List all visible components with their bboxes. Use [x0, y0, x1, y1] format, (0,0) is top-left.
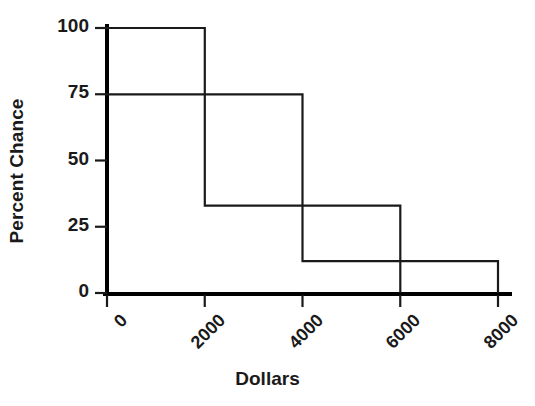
- x-axis-title: Dollars: [0, 368, 535, 390]
- step-curve: [107, 28, 400, 293]
- step-curve: [107, 94, 498, 293]
- chart-figure: 0255075100 02000400060008000 Percent Cha…: [0, 0, 535, 406]
- y-axis-title: Percent Chance: [6, 91, 28, 251]
- x-axis-ticks: [107, 295, 498, 307]
- y-tick-label: 25: [19, 214, 89, 236]
- y-tick-label: 50: [19, 148, 89, 170]
- y-tick-label: 100: [19, 15, 89, 37]
- axis-lines: [103, 24, 512, 296]
- y-tick-label: 75: [19, 81, 89, 103]
- data-series-group: [107, 28, 498, 293]
- y-tick-label: 0: [19, 280, 89, 302]
